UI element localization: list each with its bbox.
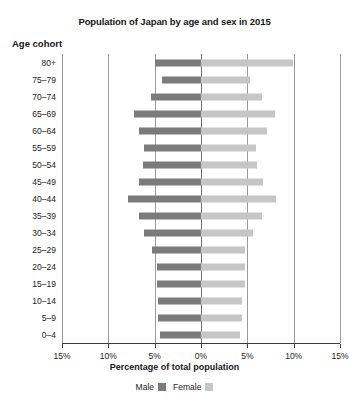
y-tick-label-40–44: 40–44: [32, 194, 56, 204]
bar-male-30–34: [144, 230, 201, 237]
x-tick-mark-1: [108, 344, 109, 348]
bar-row: 70–74: [62, 89, 340, 105]
bar-row: 35–39: [62, 208, 340, 224]
y-tick-label-35–39: 35–39: [32, 211, 56, 221]
y-axis-title: Age cohort: [12, 38, 62, 49]
y-tick-label-25–29: 25–29: [32, 245, 56, 255]
bar-row: 55–59: [62, 140, 340, 156]
bar-row: 60–64: [62, 123, 340, 139]
population-pyramid-chart: Population of Japan by age and sex in 20…: [0, 0, 349, 407]
bar-male-50–54: [143, 161, 201, 168]
bar-rows: 80+75–7970–7465–6960–6455–5950–5445–4940…: [62, 54, 340, 343]
y-tick-label-10–14: 10–14: [32, 296, 56, 306]
bar-female-15–19: [201, 281, 245, 288]
bar-female-45–49: [201, 178, 263, 185]
y-tick-label-80+: 80+: [42, 58, 56, 68]
bar-female-50–54: [201, 161, 257, 168]
legend-label-male: Male: [136, 382, 154, 392]
bar-female-55–59: [201, 144, 256, 151]
gridline-15%-6: [340, 54, 341, 343]
y-tick-label-0–4: 0–4: [42, 330, 56, 340]
y-tick-label-20–24: 20–24: [32, 262, 56, 272]
bar-male-20–24: [157, 264, 201, 271]
x-tick-label-6: 15%: [331, 351, 348, 361]
bar-row: 45–49: [62, 174, 340, 190]
bar-row: 20–24: [62, 259, 340, 275]
bar-row: 65–69: [62, 106, 340, 122]
bar-row: 30–34: [62, 225, 340, 241]
x-tick-mark-2: [155, 344, 156, 348]
x-axis-title: Percentage of total population: [0, 362, 349, 372]
y-tick-label-45–49: 45–49: [32, 177, 56, 187]
bar-female-10–14: [201, 298, 242, 305]
bar-male-35–39: [139, 213, 201, 220]
y-tick-label-15–19: 15–19: [32, 279, 56, 289]
y-tick-label-50–54: 50–54: [32, 160, 56, 170]
bar-female-60–64: [201, 127, 267, 134]
y-tick-label-5–9: 5–9: [42, 313, 56, 323]
bar-female-0–4: [201, 332, 240, 339]
bar-male-70–74: [151, 93, 201, 100]
bar-row: 0–4: [62, 327, 340, 343]
bar-female-20–24: [201, 264, 245, 271]
x-tick-label-5: 10%: [285, 351, 302, 361]
bar-female-70–74: [201, 93, 262, 100]
bar-male-45–49: [139, 178, 201, 185]
bar-male-5–9: [158, 315, 201, 322]
bar-male-80+: [155, 59, 201, 66]
bar-female-30–34: [201, 230, 253, 237]
x-tick-label-1: 10%: [100, 351, 117, 361]
y-tick-label-60–64: 60–64: [32, 126, 56, 136]
bar-male-65–69: [134, 110, 201, 117]
chart-title: Population of Japan by age and sex in 20…: [0, 16, 349, 27]
bar-female-80+: [201, 59, 293, 66]
bar-row: 25–29: [62, 242, 340, 258]
legend-item-female: Female: [173, 382, 213, 392]
bar-row: 40–44: [62, 191, 340, 207]
bar-row: 10–14: [62, 293, 340, 309]
bar-row: 15–19: [62, 276, 340, 292]
y-tick-label-75–79: 75–79: [32, 75, 56, 85]
bar-male-40–44: [128, 196, 201, 203]
bar-male-15–19: [157, 281, 201, 288]
x-tick-label-2: 5%: [149, 351, 161, 361]
plot-area: 80+75–7970–7465–6960–6455–5950–5445–4940…: [62, 54, 340, 344]
bar-female-75–79: [201, 76, 250, 83]
bar-male-0–4: [160, 332, 201, 339]
legend-swatch-female: [205, 383, 213, 391]
bar-row: 80+: [62, 55, 340, 71]
bar-male-55–59: [144, 144, 201, 151]
bar-female-65–69: [201, 110, 275, 117]
bar-male-25–29: [152, 247, 201, 254]
bar-male-10–14: [158, 298, 201, 305]
bar-female-35–39: [201, 213, 262, 220]
x-tick-mark-3: [201, 344, 202, 348]
x-tick-label-0: 15%: [53, 351, 70, 361]
bar-female-5–9: [201, 315, 242, 322]
y-tick-label-70–74: 70–74: [32, 92, 56, 102]
chart-legend: MaleFemale: [0, 382, 349, 392]
bar-male-60–64: [139, 127, 201, 134]
x-tick-label-4: 5%: [241, 351, 253, 361]
x-tick-mark-0: [62, 344, 63, 348]
x-tick-mark-4: [247, 344, 248, 348]
legend-swatch-male: [158, 383, 166, 391]
bar-female-40–44: [201, 196, 276, 203]
legend-label-female: Female: [173, 382, 201, 392]
bar-row: 5–9: [62, 310, 340, 326]
bar-row: 50–54: [62, 157, 340, 173]
x-tick-mark-5: [294, 344, 295, 348]
y-tick-label-55–59: 55–59: [32, 143, 56, 153]
bar-row: 75–79: [62, 72, 340, 88]
legend-item-male: Male: [136, 382, 166, 392]
bar-female-25–29: [201, 247, 245, 254]
y-tick-label-65–69: 65–69: [32, 109, 56, 119]
y-tick-label-30–34: 30–34: [32, 228, 56, 238]
x-tick-label-3: 0%: [195, 351, 207, 361]
x-tick-mark-6: [340, 344, 341, 348]
bar-male-75–79: [162, 76, 201, 83]
